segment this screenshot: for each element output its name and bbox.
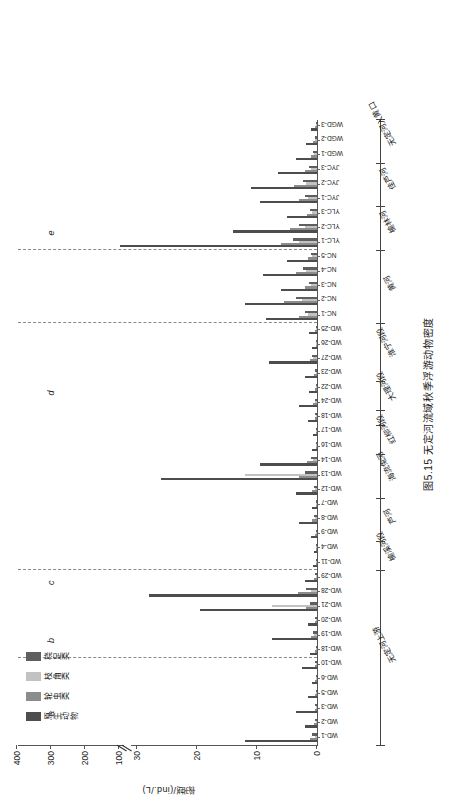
- legend-item: 原生动物: [26, 711, 78, 722]
- x-axis-tick: [317, 373, 320, 374]
- bar: [314, 486, 317, 488]
- bar: [299, 522, 317, 524]
- bar: [316, 384, 317, 386]
- bar: [309, 166, 317, 168]
- x-axis-tick: [317, 329, 320, 330]
- bar: [287, 260, 317, 262]
- bar: [287, 216, 317, 218]
- bar: [314, 723, 317, 725]
- bar: [315, 369, 317, 371]
- x-axis-tick-label: WD-21: [321, 601, 342, 608]
- x-axis-tick: [317, 416, 320, 417]
- x-axis-tick-label: WD-13: [321, 470, 342, 477]
- bar: [302, 299, 317, 301]
- bar: [312, 355, 317, 357]
- bar: [316, 340, 317, 342]
- legend-swatch: [26, 712, 41, 721]
- bar: [316, 432, 317, 434]
- bar-group: [313, 556, 317, 571]
- bar: [308, 420, 317, 422]
- bar-group: [305, 570, 317, 585]
- bar-group: [245, 294, 317, 309]
- x-axis-tick-label: WD-17: [321, 426, 342, 433]
- bar-group: [260, 454, 317, 469]
- bar: [298, 592, 317, 594]
- x-axis-tick-label: JYC-3: [321, 164, 339, 171]
- bar: [315, 330, 317, 332]
- x-axis-tick-label: WD-20: [321, 615, 342, 622]
- region-tick: [376, 541, 385, 542]
- x-axis-tick-label: WD-27: [321, 353, 342, 360]
- bar: [313, 434, 317, 436]
- x-axis-tick-label: WD-8: [321, 513, 338, 520]
- bar: [313, 141, 317, 143]
- bar: [161, 478, 317, 480]
- x-axis-tick: [317, 679, 320, 680]
- bar: [316, 675, 317, 677]
- bar: [316, 544, 317, 546]
- rotated-page: 密度/(ind./L) 0102030100200300400WD-1WD-2W…: [0, 0, 452, 808]
- x-axis-tick: [317, 256, 320, 257]
- bar: [315, 388, 317, 390]
- x-axis-tick: [317, 315, 320, 316]
- bar-group: [308, 614, 317, 629]
- x-axis-tick: [317, 591, 320, 592]
- bar: [307, 214, 317, 216]
- bar: [245, 474, 317, 476]
- x-axis-tick: [317, 125, 320, 126]
- bar: [233, 230, 317, 232]
- bar-group: [161, 468, 317, 483]
- bar: [314, 374, 317, 376]
- bar: [316, 447, 317, 449]
- x-axis-tick-label: NC-2: [321, 295, 336, 302]
- bar: [313, 565, 317, 567]
- bar-group: [272, 629, 317, 644]
- bar-group: [299, 512, 317, 527]
- x-axis-tick-label: WD-11: [321, 557, 341, 564]
- bar: [316, 345, 317, 347]
- x-axis-tick-label: WD-18: [321, 644, 342, 651]
- x-axis-tick-label: WGD-1: [321, 149, 343, 156]
- y-axis-tick-label: 10: [252, 751, 262, 785]
- bar-group: [233, 221, 317, 236]
- bar: [296, 272, 317, 274]
- bar-group: [269, 352, 317, 367]
- axis-break-icon: [123, 738, 133, 751]
- x-axis-tick: [317, 358, 320, 359]
- bar-group: [296, 701, 317, 716]
- bar: [315, 399, 317, 401]
- x-axis-tick-label: WD-1: [321, 732, 338, 739]
- legend-label: 原生动物: [44, 711, 78, 722]
- bar: [309, 391, 317, 393]
- x-axis-tick: [317, 154, 320, 155]
- bar: [316, 505, 317, 507]
- region-separator: [18, 569, 317, 570]
- x-axis-tick-label: WD-16: [321, 441, 342, 448]
- bar: [308, 696, 317, 698]
- y-axis-label: 密度/(ind./L): [18, 780, 318, 802]
- x-axis-tick-label: WD-12: [321, 484, 342, 491]
- bar: [316, 428, 317, 430]
- x-axis-tick: [317, 489, 320, 490]
- x-axis-tick-label: YLC-1: [321, 237, 340, 244]
- bar: [120, 245, 317, 247]
- bar-group: [296, 483, 317, 498]
- x-axis-tick-label: WD-19: [321, 630, 342, 637]
- bar: [316, 690, 317, 692]
- bar: [315, 617, 317, 619]
- bar: [315, 661, 317, 663]
- x-axis-tick: [317, 649, 320, 650]
- region-letter: e: [46, 230, 56, 235]
- x-axis-tick-label: WD-22: [321, 382, 342, 389]
- x-axis-tick: [317, 431, 320, 432]
- bar: [315, 413, 317, 415]
- region-separator: [18, 322, 317, 323]
- bar: [306, 607, 317, 609]
- bar-group: [312, 498, 317, 513]
- x-axis-tick-label: WD-18: [321, 411, 342, 418]
- bar: [316, 122, 317, 124]
- bar: [315, 573, 317, 575]
- bar: [299, 241, 317, 243]
- region-tick: [376, 498, 385, 499]
- x-axis-tick: [317, 533, 320, 534]
